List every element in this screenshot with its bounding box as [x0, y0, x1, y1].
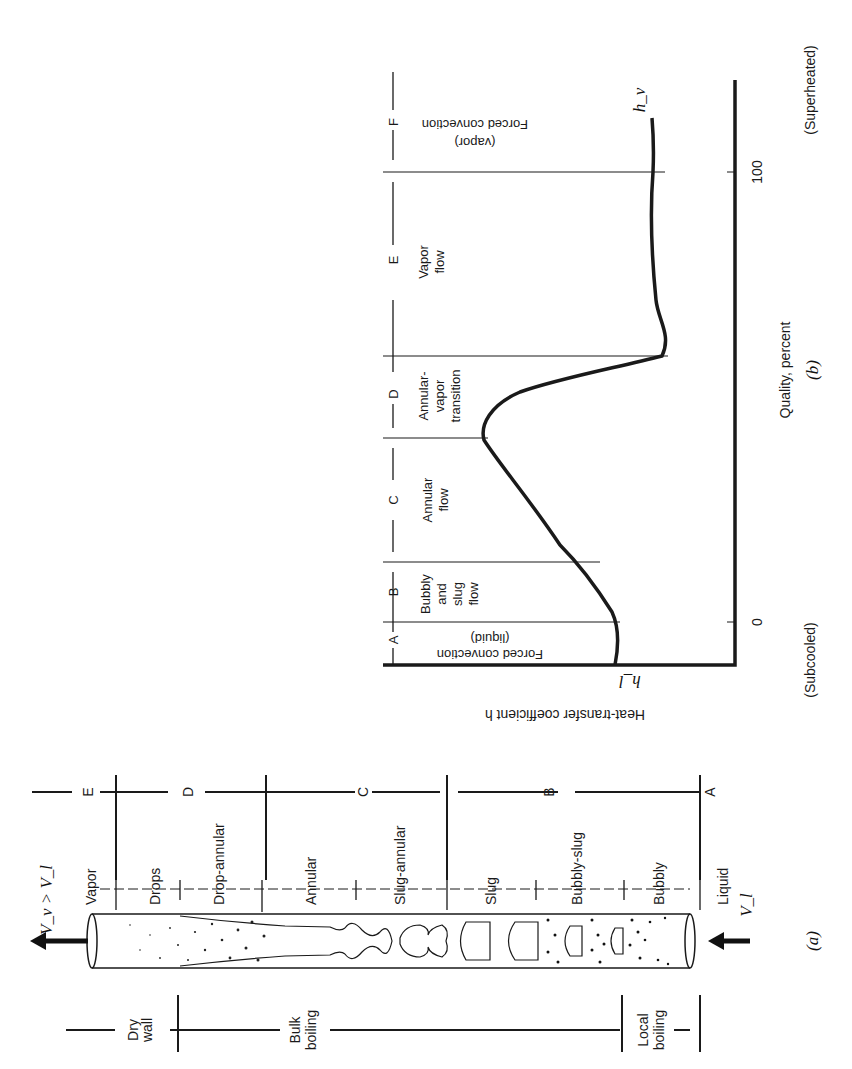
figure-canvas: V_v > V_l V_l Vapor Drops Drop-annular A…	[0, 0, 852, 1069]
superheated-label: (Superheated)	[802, 45, 818, 135]
heat-transfer-curve	[483, 118, 665, 665]
boiling-zone-line	[66, 995, 700, 1052]
zone-letter-c: C	[355, 787, 371, 797]
regime-liquid: Liquid	[715, 868, 731, 905]
zone-c-line2: flow	[436, 488, 451, 512]
regime-drop-annular: Drop-annular	[211, 823, 227, 905]
regime-annular: Annular	[303, 856, 319, 905]
figure-a: V_v > V_l V_l Vapor Drops Drop-annular A…	[30, 775, 822, 1052]
boiling-bulk-label-1: Bulk	[287, 1015, 303, 1043]
regime-vapor: Vapor	[83, 868, 99, 905]
zone-f-line1: Forced convection	[422, 117, 528, 132]
zone-e-line1: Vapor	[416, 244, 431, 278]
outlet-velocity-label: V_v > V_l	[37, 865, 56, 935]
zone-b-letter-c: C	[386, 495, 401, 504]
boiling-local-label-2: boiling	[651, 1010, 667, 1050]
zone-d-line2: vapor	[432, 379, 447, 412]
boiling-local-label-1: Local	[635, 1013, 651, 1046]
zone-e-line2: flow	[432, 250, 447, 274]
zone-letter-e: E	[80, 787, 96, 796]
zone-d-line1: Annular-	[416, 371, 431, 420]
y-axis-label: Heat-transfer coefficient h	[485, 707, 645, 723]
zone-a-line1: Forced convection	[437, 647, 543, 662]
zone-c-line1: Annular	[420, 477, 435, 522]
zone-b-letter-a: A	[386, 635, 401, 644]
h-l-label: h_l	[619, 672, 641, 691]
x-axis-label: Quality, percent	[777, 321, 793, 418]
inlet-velocity-label: V_l	[737, 893, 756, 917]
inlet-arrow-icon	[708, 932, 750, 950]
zone-b-letter-b: B	[386, 588, 401, 597]
zone-b-letter-f: F	[386, 118, 401, 126]
regime-slug: Slug	[483, 877, 499, 905]
figure-b: 0 100 Quality, percent (Subcooled) (Supe…	[383, 45, 822, 723]
zone-letter-d: D	[180, 787, 196, 797]
boiling-dry-label-2: wall	[139, 1018, 155, 1043]
zone-b-letter-e: E	[386, 255, 401, 264]
regime-ticks	[116, 878, 700, 912]
zone-b-line2: and	[434, 583, 449, 605]
regime-bubbly-slug: Bubbly-slug	[569, 832, 585, 905]
regime-bubbly: Bubbly	[651, 862, 667, 905]
zone-letter-a: A	[702, 787, 718, 797]
regime-slug-annular: Slug-annular	[392, 825, 408, 905]
zone-b-letter-d: D	[386, 389, 401, 398]
zone-d-line3: transition	[448, 370, 463, 423]
boiling-bulk-label-2: boiling	[303, 1010, 319, 1050]
zone-a-line2: (liquid)	[470, 631, 509, 646]
zone-b-line4: flow	[466, 582, 481, 606]
axes	[383, 80, 735, 665]
caption-a: (a)	[803, 931, 822, 951]
zone-b-line1: Bubbly	[418, 574, 433, 614]
x-tick-0: 0	[749, 618, 765, 626]
regime-drops: Drops	[147, 868, 163, 905]
h-v-label: h_v	[630, 87, 649, 112]
zone-f-line2: (vapor)	[454, 135, 495, 150]
zone-letter-b: B	[541, 787, 557, 796]
x-tick-100: 100	[749, 160, 765, 184]
caption-b: (b)	[803, 360, 822, 380]
pipe	[87, 914, 695, 968]
subcooled-label: (Subcooled)	[802, 622, 818, 698]
zone-b-line3: slug	[450, 582, 465, 606]
